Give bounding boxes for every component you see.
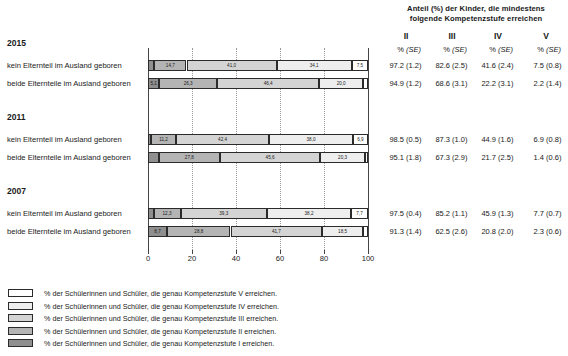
value-pct: 44.9 [478,134,496,145]
bar-segment-IV: 34,1 [277,60,352,71]
tick-label-80: 80 [320,254,328,263]
bar-segment-V [363,78,368,89]
sub-header-pct: % [478,45,496,54]
row-label: beide Elternteile im Ausland geboren [7,79,145,88]
value-se: (1.1) [452,208,474,219]
bar-segment-II: 28,8 [167,226,230,237]
value-pct: 2.2 [526,78,544,89]
level-header-III: III [430,31,474,41]
bar-segment-II: 27,8 [159,152,220,163]
value-pct: 97.2 [386,60,404,71]
value-pct: 91.3 [386,226,404,237]
value-row: 95.1(1.8)67.3(2.9)21.7(2.5)1.4(0.6) [384,152,568,163]
tick-label-0: 0 [146,254,150,263]
value-pct: 68.6 [432,78,450,89]
bar-segment-II: 14,7 [154,60,186,71]
value-pct: 20.8 [478,226,496,237]
legend-swatch-V [8,289,33,297]
legend: % der Schülerinnen und Schüler, die gena… [0,288,568,356]
value-se: (2.5) [498,152,520,163]
bar-segment-V [363,226,368,237]
value-se: (1.4) [406,226,428,237]
value-pct: 67.3 [432,152,450,163]
bar-segment-label: 7,7 [356,211,362,216]
value-se: (1.2) [406,78,428,89]
bar-segment-III: 41,7 [231,226,323,237]
value-se: (1.3) [498,208,520,219]
value-se: (2.5) [452,60,474,71]
legend-label: % der Schülerinnen und Schüler, die gena… [44,288,277,299]
value-se: (2.0) [498,226,520,237]
bar-segment-label: 39,3 [219,211,228,216]
bar-segment-II: 11,2 [151,134,176,145]
year-label-2007: 2007 [7,186,26,196]
value-se: (1.6) [498,134,520,145]
value-se: (0.5) [406,134,428,145]
value-pct: 1.4 [526,152,544,163]
value-se: (0.4) [406,208,428,219]
bar-segment-label: 7,5 [357,63,363,68]
bar-segment-label: 5,1 [150,81,156,86]
value-se: (0.6) [546,226,568,237]
sub-header-se: (SE) [406,45,428,54]
table-level-headers: IIIIIIVV [384,31,568,43]
legend-label: % der Schülerinnen und Schüler, die gena… [44,338,274,349]
bar-segment-III: 39,3 [181,208,267,219]
bar-segment-label: 18,5 [338,229,347,234]
row-label: kein Elternteil im Ausland geboren [7,61,145,70]
tick-label-20: 20 [188,254,196,263]
bar-segment-V: 6,9 [353,134,368,145]
value-pct: 82.6 [432,60,450,71]
table-header-title-line2: folgende Kompetenzstufe erreichen [384,14,568,24]
bar-segment-III: 45,6 [220,152,320,163]
row-label: kein Elternteil im Ausland geboren [7,135,145,144]
value-se: (2.6) [452,226,474,237]
bar-segment-V: 7,5 [352,60,369,71]
level-header-V: V [524,31,568,41]
bar-segment-label: 26,3 [184,81,193,86]
bar-segment-I: 5,1 [148,78,159,89]
bar-segment-label: 45,6 [266,155,275,160]
legend-swatch-II [8,327,33,335]
bar-segment-V: 7,7 [351,208,368,219]
bar-segment-label: 6,9 [357,137,363,142]
value-pct: 98.5 [386,134,404,145]
bar-segment-II: 26,3 [159,78,217,89]
tick-label-60: 60 [276,254,284,263]
value-pct: 6.9 [526,134,544,145]
bar-segment-label: 41,7 [272,229,281,234]
bar-segment-label: 42,4 [218,137,227,142]
year-label-2011: 2011 [7,112,25,122]
sub-header-pct: % [526,45,544,54]
sub-header-se: (SE) [498,45,520,54]
sub-header-se: (SE) [452,45,474,54]
value-pct: 87.3 [432,134,450,145]
year-label-2015: 2015 [7,38,26,48]
bar-segment-label: 38,0 [307,137,316,142]
sub-header-pct: % [432,45,450,54]
legend-swatch-I [8,339,33,347]
bar-segment-label: 34,1 [310,63,319,68]
legend-swatch-III [8,314,33,322]
level-header-IV: IV [476,31,520,41]
bar-segment-label: 20,0 [337,81,346,86]
bar-segment-label: 38,2 [305,211,314,216]
level-header-II: II [384,31,428,41]
legend-swatch-IV [8,302,33,310]
bar-segment-III: 46,4 [217,78,319,89]
value-row: 97.5(0.4)85.2(1.1)45.9(1.3)7.7(0.7) [384,208,568,219]
axis-right [368,48,369,250]
bar-segment-label: 14,7 [166,63,175,68]
row-label: beide Elternteile im Ausland geboren [7,153,145,162]
value-pct: 7.7 [526,208,544,219]
table-header-title-line1: Anteil (%) der Kinder, die mindestens [384,4,568,14]
table-header-title: Anteil (%) der Kinder, die mindestens fo… [384,4,568,24]
value-pct: 85.2 [432,208,450,219]
bar-segment-label: 27,8 [185,155,194,160]
bar-segment-IV: 38,0 [269,134,353,145]
value-pct: 7.5 [526,60,544,71]
chart-figure: Anteil (%) der Kinder, die mindestens fo… [0,0,568,356]
tick-label-40: 40 [232,254,240,263]
plot-area: 020406080100 14,741,034,17,55,126,346,42… [148,48,369,250]
bar-segment-label: 46,4 [264,81,273,86]
